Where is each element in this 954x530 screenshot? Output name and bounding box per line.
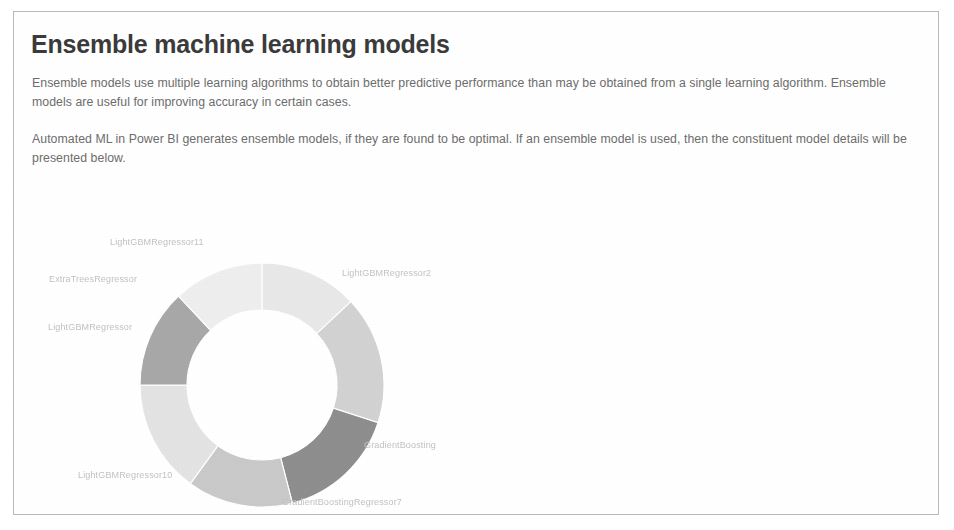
- body-paragraph-2: Automated ML in Power BI generates ensem…: [32, 130, 925, 168]
- donut-slice-label: LightGBMRegressor: [48, 322, 132, 332]
- donut-slice-label: GradientBoostingRegressor7: [282, 497, 402, 507]
- ensemble-model-donut-chart: LightGBMRegressor11LightGBMRegressor2Gra…: [14, 207, 939, 512]
- donut-slice-label: LightGBMRegressor2: [342, 268, 431, 278]
- document-page-frame: Ensemble machine learning models Ensembl…: [13, 11, 939, 515]
- donut-slice-label: LightGBMRegressor11: [110, 237, 204, 247]
- donut-chart-svg: [14, 207, 939, 512]
- document-content: Ensemble machine learning models Ensembl…: [14, 12, 938, 514]
- donut-slice-label: ExtraTreesRegressor: [49, 274, 137, 284]
- body-paragraph-1: Ensemble models use multiple learning al…: [32, 74, 925, 112]
- page-title: Ensemble machine learning models: [31, 30, 450, 59]
- donut-slice-label: LightGBMRegressor10: [78, 470, 172, 480]
- donut-slice-label: GradientBoosting: [364, 440, 436, 450]
- donut-slice[interactable]: [281, 408, 378, 503]
